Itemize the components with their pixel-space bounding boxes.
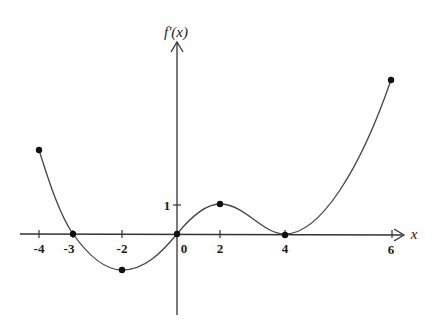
x-tick-label: -2 [117, 241, 128, 256]
x-tick-label: 4 [282, 241, 289, 256]
x-tick-label: -4 [34, 241, 45, 256]
x-tick-label: 2 [217, 241, 224, 256]
y-axis-title: f'(x) [164, 24, 188, 41]
x-tick-label: 6 [388, 242, 395, 257]
x-tick-label: 0 [181, 241, 188, 256]
x-axis-title: x [410, 226, 418, 242]
derivative-graph: -4 -3 -2 0 2 4 6 1 f'(x) x [0, 0, 439, 333]
derivative-curve [39, 80, 391, 270]
y-tick-label: 1 [164, 198, 171, 213]
x-axis [20, 234, 402, 235]
marked-points [36, 77, 394, 273]
x-tick-label: -3 [64, 241, 75, 256]
